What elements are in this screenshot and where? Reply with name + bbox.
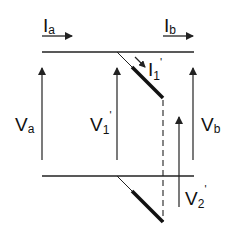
label-v2p: V2' [185, 183, 206, 211]
label-i1p: I1' [148, 56, 162, 83]
label-ia: Ia [43, 15, 55, 37]
circuit-diagram: Ia Ib I1' Va V1' Vb V2' [0, 0, 232, 236]
bottom-branch-thin [117, 176, 132, 191]
top-branch-thin [117, 52, 132, 67]
label-vb: Vb [201, 114, 221, 136]
current-i1p-arrow [135, 57, 145, 67]
bottom-branch-thick [132, 191, 163, 222]
label-va: Va [15, 114, 35, 136]
label-ib: Ib [164, 15, 176, 37]
label-v1p: V1' [90, 109, 111, 137]
